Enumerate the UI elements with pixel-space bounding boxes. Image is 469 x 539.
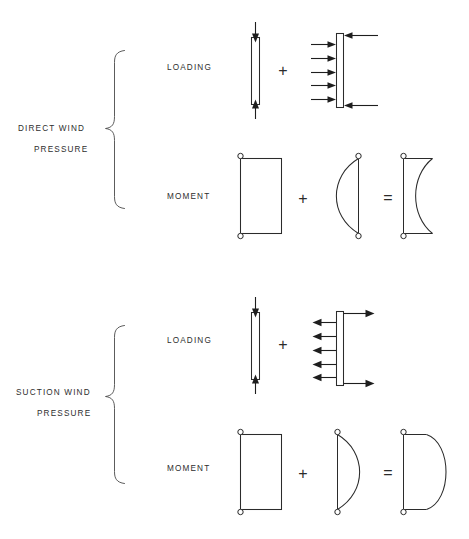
operator-plus-suction-loading: + xyxy=(278,336,287,353)
reaction-arrow-top-head xyxy=(344,32,353,38)
suction-arrow-1-head xyxy=(313,319,322,326)
pin-marker-top-combined-suction xyxy=(401,429,406,434)
pin-marker-top-arc-suction xyxy=(335,429,340,434)
distributed-suction-arrows xyxy=(313,319,337,381)
pin-marker-bottom-rect-direct xyxy=(238,233,243,238)
pin-marker-bottom-combined-direct xyxy=(401,233,406,238)
combined-moment-suction xyxy=(401,429,446,514)
row-label-moment-suction: MOMENT xyxy=(167,464,210,473)
pin-marker-bottom-arc-direct xyxy=(356,233,361,238)
pressure-arrow-3-head xyxy=(328,69,337,75)
diagram-canvas: DIRECT WIND PRESSURE LOADING xyxy=(0,0,469,539)
pin-marker-top-arc-direct xyxy=(356,153,361,158)
operator-plus-direct-moment: + xyxy=(298,190,307,207)
operator-equals-suction-moment: = xyxy=(383,464,392,481)
axial-member-bar xyxy=(252,38,260,105)
reaction-arrow-bottom-head-suction xyxy=(366,380,375,387)
brace-direct xyxy=(106,51,125,209)
section-suction-wind-pressure: SUCTION WIND PRESSURE LOADING + xyxy=(16,297,446,515)
row-direct-moment: MOMENT + = xyxy=(167,153,433,238)
arc-moment-suction xyxy=(335,429,360,514)
category-label-direct-line1: DIRECT WIND xyxy=(18,124,85,133)
pin-marker-bottom-combined-suction xyxy=(401,509,406,514)
wall-member-bar xyxy=(337,34,344,108)
rectangle-moment-suction xyxy=(238,429,282,514)
row-direct-loading: LOADING + xyxy=(167,22,378,119)
axial-member-bar-suction xyxy=(252,313,260,380)
pressure-arrow-1-head xyxy=(328,41,337,47)
category-label-suction-line2: PRESSURE xyxy=(37,409,91,418)
rectangle-moment-shape-suction xyxy=(241,435,282,510)
row-label-loading-direct: LOADING xyxy=(167,63,212,72)
axial-column-suction xyxy=(252,297,260,394)
suction-wall xyxy=(313,310,375,387)
brace-suction xyxy=(106,326,125,484)
row-suction-loading: LOADING + xyxy=(167,297,375,394)
pressure-arrow-4-head xyxy=(328,82,337,88)
rectangle-moment-shape xyxy=(241,159,282,234)
wall-member-bar-suction xyxy=(337,312,344,386)
category-label-suction-line1: SUCTION WIND xyxy=(16,388,91,397)
row-label-moment-direct: MOMENT xyxy=(167,192,210,201)
pressure-wall-direct xyxy=(311,32,378,108)
pin-marker-bottom-rect-suction xyxy=(238,509,243,514)
row-suction-moment: MOMENT + = xyxy=(167,429,446,514)
suction-arrow-4-head xyxy=(313,361,322,368)
reaction-arrows-suction xyxy=(344,310,375,387)
distributed-pressure-arrows-direct xyxy=(311,41,336,102)
reaction-arrow-bottom-head xyxy=(344,102,353,108)
pin-marker-top-combined-direct xyxy=(401,153,406,158)
pin-marker-bottom-arc-suction xyxy=(335,509,340,514)
suction-arrow-2-head xyxy=(313,333,322,340)
axial-column-direct xyxy=(252,22,260,119)
suction-arrow-3-head xyxy=(313,347,322,354)
section-direct-wind-pressure: DIRECT WIND PRESSURE LOADING xyxy=(18,22,433,239)
suction-arrow-5-head xyxy=(313,374,322,381)
pressure-arrow-5-head xyxy=(328,96,337,102)
category-label-direct-line2: PRESSURE xyxy=(34,145,88,154)
operator-equals-direct-moment: = xyxy=(383,189,392,206)
pin-marker-top-rect-suction xyxy=(238,429,243,434)
combined-moment-curve xyxy=(416,159,433,234)
operator-plus-direct-loading: + xyxy=(278,62,287,79)
pressure-arrow-2-head xyxy=(328,55,337,61)
operator-plus-suction-moment: + xyxy=(298,465,307,482)
reaction-arrow-top-head-suction xyxy=(366,310,375,317)
rectangle-moment-direct xyxy=(238,153,282,238)
combined-moment-direct xyxy=(401,153,433,238)
combined-moment-curve-suction xyxy=(427,435,447,510)
arc-moment-curve-suction xyxy=(338,435,360,510)
pin-marker-top-rect-direct xyxy=(238,153,243,158)
row-label-loading-suction: LOADING xyxy=(167,336,212,345)
wind-pressure-moment-diagram: DIRECT WIND PRESSURE LOADING xyxy=(0,0,469,539)
arc-moment-direct xyxy=(336,153,361,238)
arc-moment-curve xyxy=(336,159,358,234)
reaction-arrows-direct xyxy=(344,32,378,108)
